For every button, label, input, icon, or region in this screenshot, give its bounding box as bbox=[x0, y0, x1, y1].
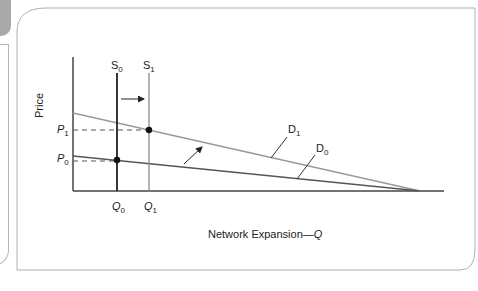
equilibrium-point-1 bbox=[146, 127, 152, 133]
q0-label: Q0 bbox=[112, 200, 126, 215]
p1-label: P1 bbox=[57, 123, 69, 138]
d1-leader-line bbox=[271, 137, 287, 158]
d1-label: D1 bbox=[288, 123, 301, 138]
demand-curve-d0 bbox=[73, 156, 420, 191]
demand-shift-arrow bbox=[184, 147, 202, 164]
x-axis-title: Network Expansion—Q bbox=[208, 228, 323, 240]
demand-curve-d1 bbox=[73, 113, 420, 191]
s1-label: S1 bbox=[143, 59, 155, 74]
p0-label: P0 bbox=[57, 152, 69, 167]
q1-label: Q1 bbox=[144, 200, 158, 215]
d0-label: D0 bbox=[316, 142, 329, 157]
s0-label: S0 bbox=[111, 59, 123, 74]
supply-demand-diagram: S0 S1 D1 D0 P1 P0 Q0 Q1 Price Network Ex… bbox=[0, 0, 478, 291]
equilibrium-point-0 bbox=[114, 157, 120, 163]
chart-frame bbox=[36, 8, 396, 20]
y-axis-title: Price bbox=[33, 93, 45, 118]
